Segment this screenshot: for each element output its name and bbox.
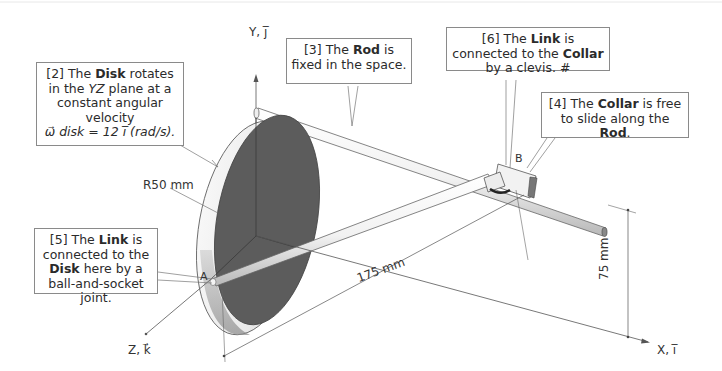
z-axis-label: Z, k⃗ xyxy=(128,343,151,357)
x-axis xyxy=(256,236,650,344)
radius-label: R50 mm xyxy=(143,178,194,192)
point-a-label: A xyxy=(200,270,208,283)
callout-collar-slide: [4] The Collar is free to slide along th… xyxy=(541,92,689,138)
callout-disk-rotation: [2] The Disk rotates in the YZ plane at … xyxy=(36,62,184,146)
x-axis-label: X, i̅ xyxy=(657,343,676,357)
height-dimension-label: 75 mm xyxy=(597,238,611,280)
disk xyxy=(181,107,335,343)
point-b-label: B xyxy=(515,152,523,165)
callout-rod-fixed: [3] The Rod is fixed in the space. xyxy=(286,38,412,84)
callout-ball-socket: [5] The Link is connected to the Disk he… xyxy=(34,228,158,294)
dimension-75 xyxy=(608,205,636,338)
angular-velocity-equation: ω⃗ disk = 12 i̅ (rad/s). xyxy=(45,124,176,139)
y-axis-label: Y, j̅ xyxy=(249,25,267,39)
mechanism-diagram: Y, j̅ Z, k⃗ X, i̅ A B R50 mm 175 mm 75 m… xyxy=(0,0,722,371)
callout-link-clevis: [6] The Link is connected to the Collar … xyxy=(446,27,610,71)
